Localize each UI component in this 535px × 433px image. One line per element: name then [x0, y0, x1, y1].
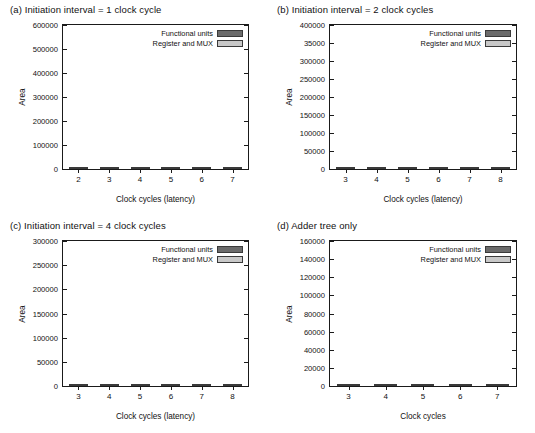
y-tick-label: 35000: [304, 39, 325, 48]
legend: Functional unitsRegister and MUX: [151, 28, 245, 49]
y-tick-label: 20000: [304, 363, 325, 372]
x-tick-mark: [140, 386, 141, 390]
y-tick-label: 500000: [33, 45, 58, 54]
y-tick-label: 160000: [300, 237, 325, 246]
y-tick-label: 250000: [300, 75, 325, 84]
y-tick-mark-right: [244, 386, 248, 387]
x-tick-label: 5: [138, 392, 142, 401]
x-tick-mark: [497, 386, 498, 390]
x-tick-label: 7: [199, 392, 203, 401]
legend-label: Functional units: [429, 245, 481, 254]
y-tick-label: 0: [54, 165, 58, 174]
panel-title: (b) Initiation interval = 2 clock cycles: [277, 4, 433, 15]
x-tick-mark: [346, 169, 347, 173]
x-tick-label: 6: [169, 392, 173, 401]
y-axis-label: Area: [283, 240, 295, 387]
y-tick-label: 300000: [33, 93, 58, 102]
x-tick-mark: [386, 386, 387, 390]
y-tick-mark-right: [512, 386, 516, 387]
y-tick-label: 250000: [33, 261, 58, 270]
x-tick-mark: [202, 386, 203, 390]
y-tick-mark: [330, 386, 334, 387]
x-tick-label: 7: [495, 392, 499, 401]
y-tick-label: 50000: [304, 147, 325, 156]
y-tick-label: 150000: [300, 111, 325, 120]
x-tick-mark: [460, 386, 461, 390]
legend-item-functional-units: Functional units: [421, 29, 511, 38]
panel-d: (d) Adder tree onlyArea02000040000600008…: [267, 216, 535, 433]
legend-item-register-and-mux: Register and MUX: [153, 39, 243, 48]
x-tick-label: 4: [384, 392, 388, 401]
legend-swatch-register-and-mux: [485, 256, 511, 263]
legend-swatch-functional-units: [485, 30, 511, 37]
y-axis-label-text: Area: [18, 88, 27, 105]
legend-item-register-and-mux: Register and MUX: [421, 39, 511, 48]
legend-item-register-and-mux: Register and MUX: [153, 255, 243, 264]
legend-swatch-register-and-mux: [485, 40, 511, 47]
panel-a: (a) Initiation interval = 1 clock cycleA…: [0, 0, 267, 216]
x-tick-mark: [501, 169, 502, 173]
y-tick-label: 50000: [37, 357, 58, 366]
y-tick-mark: [330, 169, 334, 170]
x-tick-label: 4: [107, 392, 111, 401]
plot-area: 0200004000060000800001000001200001400001…: [329, 240, 517, 387]
bar-slot: 3: [63, 241, 94, 386]
legend-label: Functional units: [161, 29, 213, 38]
legend-label: Register and MUX: [421, 39, 481, 48]
legend-item-register-and-mux: Register and MUX: [421, 255, 511, 264]
x-tick-mark: [109, 386, 110, 390]
x-tick-label: 3: [76, 392, 80, 401]
x-tick-mark: [470, 169, 471, 173]
y-tick-label: 140000: [300, 255, 325, 264]
figure-multi-panel-bar-charts: (a) Initiation interval = 1 clock cycleA…: [0, 0, 535, 433]
legend-swatch-functional-units: [217, 30, 243, 37]
x-tick-mark: [423, 386, 424, 390]
legend-label: Register and MUX: [421, 255, 481, 264]
legend-swatch-functional-units: [485, 246, 511, 253]
x-tick-mark: [233, 386, 234, 390]
y-axis-label: Area: [16, 24, 28, 170]
legend-label: Register and MUX: [153, 255, 213, 264]
plot-area: 0500001000001500002000002500003000003456…: [62, 240, 249, 387]
bar-slot: 4: [361, 25, 392, 169]
y-tick-mark-right: [512, 169, 516, 170]
y-tick-label: 300000: [300, 57, 325, 66]
x-tick-mark: [171, 169, 172, 173]
y-tick-label: 100000: [300, 291, 325, 300]
x-tick-mark: [377, 169, 378, 173]
y-tick-label: 0: [321, 382, 325, 391]
y-tick-label: 400000: [300, 21, 325, 30]
legend: Functional unitsRegister and MUX: [419, 28, 513, 49]
y-axis-label: Area: [16, 240, 28, 387]
y-tick-mark: [63, 169, 67, 170]
y-tick-label: 100000: [33, 141, 58, 150]
x-tick-mark: [202, 169, 203, 173]
y-axis-label-text: Area: [285, 88, 294, 105]
x-tick-label: 8: [498, 175, 502, 184]
x-tick-label: 3: [343, 175, 347, 184]
y-tick-label: 100000: [33, 333, 58, 342]
legend-item-functional-units: Functional units: [153, 29, 243, 38]
legend-item-functional-units: Functional units: [421, 245, 511, 254]
legend-swatch-register-and-mux: [217, 40, 243, 47]
legend-label: Functional units: [429, 29, 481, 38]
legend: Functional unitsRegister and MUX: [151, 244, 245, 265]
x-tick-label: 4: [374, 175, 378, 184]
legend-label: Register and MUX: [153, 39, 213, 48]
y-tick-label: 200000: [33, 285, 58, 294]
plot-area: 0100000200000300000400000500000600000234…: [62, 24, 249, 170]
y-tick-label: 150000: [33, 309, 58, 318]
bar-slot: 2: [63, 25, 94, 169]
x-tick-label: 7: [230, 175, 234, 184]
y-tick-label: 600000: [33, 21, 58, 30]
bar-slot: 3: [330, 241, 367, 386]
x-tick-mark: [439, 169, 440, 173]
legend-swatch-functional-units: [217, 246, 243, 253]
x-tick-label: 6: [458, 392, 462, 401]
y-tick-label: 120000: [300, 273, 325, 282]
y-tick-label: 60000: [304, 327, 325, 336]
legend-label: Functional units: [161, 245, 213, 254]
x-axis-label: Clock cycles (latency): [62, 412, 249, 421]
y-tick-label: 0: [321, 165, 325, 174]
panel-title: (d) Adder tree only: [277, 220, 357, 231]
